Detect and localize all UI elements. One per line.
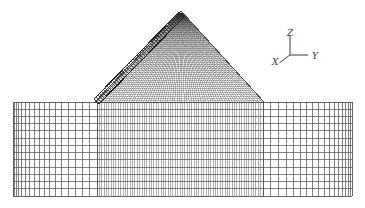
coordinate-axes: Z Y X [271, 28, 319, 67]
foundation-mesh [13, 102, 352, 196]
z-axis-label: Z [286, 28, 294, 38]
figure-canvas: Z Y X [0, 0, 365, 208]
y-axis-label: Y [312, 51, 319, 61]
x-axis-line [280, 55, 291, 63]
dam-body-mesh [95, 11, 264, 102]
x-axis-label: X [271, 57, 279, 67]
fem-mesh-figure: Z Y X [0, 0, 365, 208]
